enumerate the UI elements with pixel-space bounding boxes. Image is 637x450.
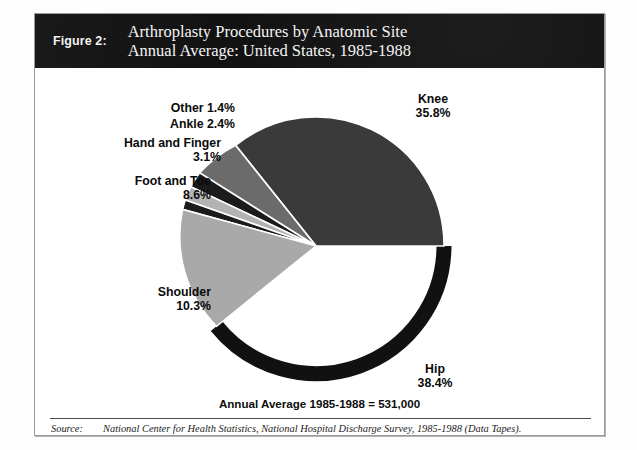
figure-title: Arthroplasty Procedures by Anatomic Site… — [128, 22, 411, 61]
pie-label-hip-pct: 38.4% — [390, 376, 480, 390]
chart-area: Knee 35.8% Hip 38.4% Shoulder 10.3% Foot… — [35, 68, 604, 398]
pie-label-hand-and-finger-name: Hand and Finger — [45, 136, 221, 150]
pie-label-shoulder-pct: 10.3% — [51, 299, 211, 313]
pie-chart: Knee 35.8% Hip 38.4% Shoulder 10.3% Foot… — [35, 68, 606, 398]
source-note: Source:National Center for Health Statis… — [51, 423, 595, 434]
pie-label-knee-name: Knee — [388, 92, 478, 106]
pie-label-ankle: Ankle 2.4% — [65, 117, 235, 131]
page-background: Figure 2: Arthroplasty Procedures by Ana… — [0, 0, 637, 450]
pie-label-shoulder-name: Shoulder — [51, 285, 211, 299]
figure-header-bar: Figure 2: Arthroplasty Procedures by Ana… — [35, 14, 604, 68]
pie-label-foot-and-toe-pct: 8.6% — [45, 188, 211, 202]
figure-title-line-2: Annual Average: United States, 1985-1988 — [128, 41, 411, 61]
figure-title-line-1: Arthroplasty Procedures by Anatomic Site — [128, 22, 411, 42]
pie-label-shoulder: Shoulder 10.3% — [51, 285, 211, 313]
pie-label-ankle-name: Ankle 2.4% — [65, 117, 235, 131]
pie-label-hip: Hip 38.4% — [390, 362, 480, 390]
pie-label-foot-and-toe: Foot and Toe 8.6% — [45, 174, 211, 202]
pie-label-hand-and-finger: Hand and Finger 3.1% — [45, 136, 221, 164]
chart-annotation: Annual Average 1985-1988 = 531,000 — [35, 397, 604, 410]
pie-label-hip-name: Hip — [390, 362, 480, 376]
pie-label-foot-and-toe-name: Foot and Toe — [45, 174, 211, 188]
pie-label-other-name: Other 1.4% — [65, 101, 235, 115]
source-text: National Center for Health Statistics, N… — [103, 423, 521, 434]
pie-label-other: Other 1.4% — [65, 101, 235, 115]
figure-number-label: Figure 2: — [53, 34, 107, 48]
source-label: Source: — [51, 423, 103, 434]
pie-label-hand-and-finger-pct: 3.1% — [45, 150, 221, 164]
pie-label-knee: Knee 35.8% — [388, 92, 478, 120]
figure-frame: Figure 2: Arthroplasty Procedures by Ana… — [34, 13, 605, 436]
pie-label-knee-pct: 35.8% — [388, 106, 478, 120]
source-divider — [50, 418, 591, 419]
